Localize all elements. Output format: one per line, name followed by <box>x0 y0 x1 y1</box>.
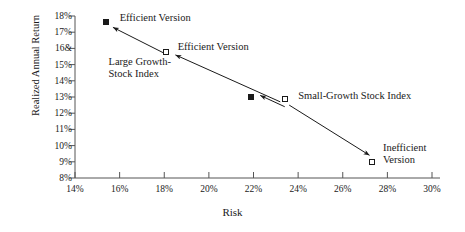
data-point-efficient-version-small-growth <box>248 94 254 100</box>
annotation-small-growth-stock-index: Small-Growth Stock Index <box>298 90 411 103</box>
annotation-efficient-version-top: Efficient Version <box>120 12 191 25</box>
y-tick-label: 9% <box>34 157 72 167</box>
x-tick-label: 26% <box>323 184 363 194</box>
arrow-to-inefficient <box>289 105 369 155</box>
x-tick-label: 22% <box>234 184 274 194</box>
x-axis-ticks: 14%16%18%20%22%24%26%28%30% <box>0 184 465 200</box>
data-point-inefficient-version <box>369 159 375 165</box>
y-tick-label: 11% <box>34 124 72 134</box>
y-tick-label: 17% <box>34 27 72 37</box>
y-tick-label: 12% <box>34 108 72 118</box>
data-point-efficient-version-large-growth <box>103 19 109 25</box>
arrow-to-efficient-top <box>113 27 164 53</box>
y-tick-label: 18% <box>34 11 72 21</box>
arrow-to-efficient-middle-upper <box>175 55 280 102</box>
annotation-efficient-version-middle: Efficient Version <box>178 41 249 54</box>
x-tick-label: 30% <box>412 184 452 194</box>
data-point-small-growth-stock-index <box>282 96 288 102</box>
y-tick-label: 14% <box>34 76 72 86</box>
data-point-large-growth-stock-index <box>163 49 169 55</box>
y-tick-label: 16& <box>34 43 72 53</box>
chart-figure: Realized Annual Return Risk 18%17%16&15%… <box>0 0 465 232</box>
annotation-inefficient-version: Inefficient Version <box>383 142 427 167</box>
annotation-large-growth-stock-index: Large Growth- Stock Index <box>108 56 171 81</box>
y-tick-label: 8% <box>34 173 72 183</box>
x-tick-label: 14% <box>55 184 95 194</box>
x-tick-label: 16% <box>100 184 140 194</box>
y-tick-label: 13% <box>34 92 72 102</box>
y-tick-label: 10% <box>34 141 72 151</box>
x-tick-label: 24% <box>278 184 318 194</box>
x-tick-label: 20% <box>189 184 229 194</box>
x-tick-label: 28% <box>367 184 407 194</box>
y-tick-label: 15% <box>34 60 72 70</box>
x-tick-label: 18% <box>144 184 184 194</box>
